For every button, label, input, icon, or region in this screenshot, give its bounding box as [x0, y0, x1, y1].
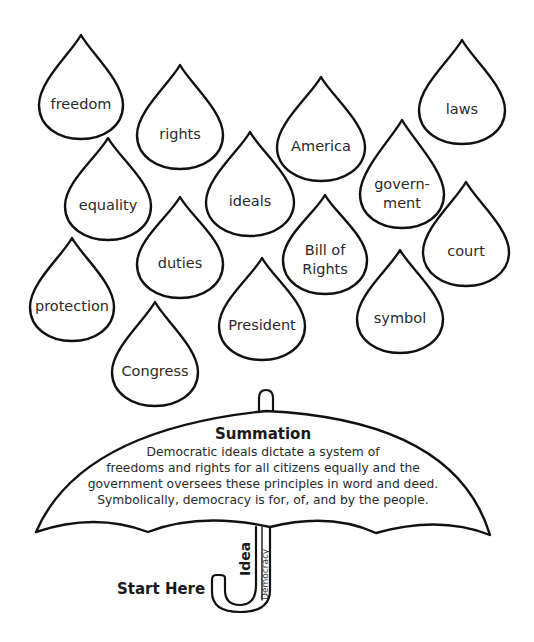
raindrop-shape [137, 65, 223, 169]
raindrop-label: symbol [374, 310, 426, 326]
raindrop-label: protection [35, 298, 109, 314]
raindrop-label: ideals [229, 193, 272, 209]
raindrop-label: rights [159, 126, 201, 142]
raindrop-shape [419, 40, 505, 144]
raindrop-label: freedom [51, 96, 112, 112]
handle-label-idea: Idea [237, 542, 253, 576]
raindrop-protection: protection [30, 238, 114, 341]
raindrop-equality: equality [65, 138, 151, 240]
umbrella-top-knob [259, 390, 273, 412]
raindrop-label: America [291, 138, 351, 154]
raindrop-label: ment [383, 195, 421, 211]
raindrop-shape [277, 77, 365, 181]
summation-title: Summation [215, 425, 311, 443]
raindrop-rights: rights [137, 65, 223, 169]
raindrop-label: duties [158, 255, 203, 271]
raindrop-bill-of-rights: Bill ofRights [283, 195, 367, 294]
raindrop-label: court [447, 243, 485, 259]
raindrop-laws: laws [419, 40, 505, 144]
raindrop-label: govern- [374, 176, 430, 192]
raindrop-label: Rights [302, 261, 348, 277]
handle-label-democracy: Democracy [260, 548, 270, 600]
raindrop-label: Congress [121, 363, 188, 379]
raindrop-government: govern-ment [360, 120, 444, 228]
raindrop-shape [39, 35, 123, 139]
summation-line-3: government oversees these principles in … [88, 477, 439, 491]
raindrop-label: Bill of [305, 242, 347, 258]
raindrop-freedom: freedom [39, 35, 123, 139]
summation-line-1: Democratic ideals dictate a system of [146, 445, 380, 459]
summation-line-4: Symbolically, democracy is for, of, and … [97, 493, 428, 507]
raindrop-label: equality [79, 197, 138, 213]
raindrop-label: laws [446, 101, 478, 117]
raindrop-shape [360, 120, 444, 228]
summation-line-2: freedoms and rights for all citizens equ… [106, 461, 420, 475]
raindrop-shape [30, 238, 114, 341]
start-here-label: Start Here [117, 580, 205, 598]
umbrella-graphic-organizer: freedomrightsAmericalawsequalityidealsgo… [0, 0, 534, 642]
raindrop-congress: Congress [112, 302, 198, 406]
raindrop-shape [112, 302, 198, 406]
raindrop-shape [65, 138, 151, 240]
raindrops: freedomrightsAmericalawsequalityidealsgo… [30, 35, 509, 406]
raindrop-label: President [228, 317, 296, 333]
raindrop-america: America [277, 77, 365, 181]
